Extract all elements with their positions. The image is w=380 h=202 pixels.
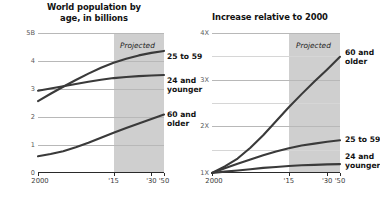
series-lines-left bbox=[38, 33, 164, 173]
panel-title-left: World population by age, in billions bbox=[0, 2, 188, 23]
ytick-label-1X: 1X bbox=[200, 169, 209, 177]
series-line-60-and-older bbox=[38, 114, 164, 156]
xtick-mark-2015-right bbox=[289, 173, 290, 176]
series-label-60-and-older-right: 60 and older bbox=[345, 48, 374, 66]
ytick-label-1: 1 bbox=[31, 141, 35, 149]
chart-panel-increase-relative: Increase relative to 2000 Projected 4X 3… bbox=[188, 0, 375, 202]
ytick-label-3X: 3X bbox=[200, 76, 209, 84]
ytick-label-2X: 2X bbox=[200, 122, 209, 130]
series-line-24-and-younger bbox=[38, 75, 164, 91]
series-label-text: 25 to 59 bbox=[345, 135, 380, 144]
xtick-mark-2030-left bbox=[151, 173, 152, 176]
ytick-label-3: 3 bbox=[31, 85, 35, 93]
xtick-mark-2050-right bbox=[340, 173, 341, 176]
ytick-label-2: 2 bbox=[31, 113, 35, 121]
series-label-24-and-younger-right: 24 and younger bbox=[345, 152, 380, 170]
plot-area-left: Projected 5B 4 3 2 1 0 2000 '15 '30 '50 bbox=[38, 33, 164, 173]
xtick-label-2000-right: 2000 bbox=[205, 177, 222, 185]
xtick-label-2030-left: '30 bbox=[146, 177, 157, 185]
series-label-25-to-59-right: 25 to 59 bbox=[345, 135, 380, 144]
panel-title-left-line1: World population by bbox=[47, 2, 141, 12]
ytick-label-4: 4 bbox=[31, 57, 35, 65]
xtick-mark-2050-left bbox=[164, 173, 165, 176]
xtick-label-2015-right: '15 bbox=[284, 177, 295, 185]
xtick-mark-2030-right bbox=[327, 173, 328, 176]
chart-panel-world-population: World population by age, in billions Pro… bbox=[0, 0, 188, 202]
series-label-text: 60 and bbox=[345, 48, 374, 57]
xtick-label-2015-left: '15 bbox=[108, 177, 119, 185]
series-line-25-to-59 bbox=[212, 140, 340, 173]
xtick-label-2050-left: '50 bbox=[159, 177, 170, 185]
series-label-text-2: older bbox=[345, 57, 367, 66]
xtick-label-2030-right: '30 bbox=[322, 177, 333, 185]
panel-title-left-line2: age, in billions bbox=[60, 13, 128, 23]
xtick-label-2050-right: '50 bbox=[335, 177, 346, 185]
series-line-60-and-older bbox=[212, 57, 340, 173]
ytick-label-4X: 4X bbox=[200, 29, 209, 37]
panel-title-right: Increase relative to 2000 bbox=[212, 12, 328, 23]
series-label-text-2: younger bbox=[345, 161, 380, 170]
panel-title-right-line1: Increase relative to 2000 bbox=[212, 12, 328, 22]
xtick-mark-2000-left bbox=[38, 173, 39, 176]
ytick-label-5B: 5B bbox=[26, 29, 35, 37]
plot-area-right: Projected 4X 3X 2X 1X 2000 '15 '30 '50 bbox=[212, 33, 340, 173]
xtick-label-2000-left: 2000 bbox=[31, 177, 48, 185]
series-label-text: 24 and bbox=[345, 152, 374, 161]
series-lines-right bbox=[212, 33, 340, 173]
xtick-mark-2015-left bbox=[114, 173, 115, 176]
series-label-text-2: older bbox=[167, 119, 189, 128]
ytick-label-0: 0 bbox=[31, 169, 35, 177]
